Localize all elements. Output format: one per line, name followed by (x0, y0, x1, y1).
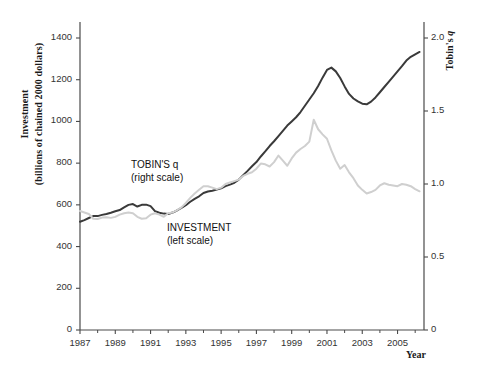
x-tick-label: 1991 (131, 337, 171, 348)
chart-figure: Investment (billions of chained 2000 dol… (0, 0, 489, 375)
left-tick-label: 800 (32, 156, 72, 167)
left-tick-label: 400 (32, 240, 72, 251)
left-tick-label: 200 (32, 281, 72, 292)
left-tick-label: 0 (32, 323, 72, 334)
x-tick-label: 1993 (166, 337, 206, 348)
x-tick-label: 1989 (95, 337, 135, 348)
right-tick-label: 0.5 (431, 250, 471, 261)
x-tick-label: 1997 (236, 337, 276, 348)
right-tick-label: 1.5 (431, 104, 471, 115)
right-tick-label: 0 (431, 323, 471, 334)
right-tick-label: 2.0 (431, 31, 471, 42)
x-tick-label: 2003 (342, 337, 382, 348)
left-tick-label: 1000 (32, 114, 72, 125)
investment-series-line (80, 52, 420, 222)
x-tick-label: 1995 (201, 337, 241, 348)
axis-lines (80, 22, 424, 330)
x-tick-label: 2001 (307, 337, 347, 348)
x-tick-label: 1987 (60, 337, 100, 348)
series-layer (80, 52, 420, 222)
left-tick-label: 1400 (32, 31, 72, 42)
plot-area (0, 0, 489, 375)
x-tick-label: 1999 (272, 337, 312, 348)
right-tick-label: 1.0 (431, 177, 471, 188)
left-tick-label: 600 (32, 198, 72, 209)
left-tick-label: 1200 (32, 73, 72, 84)
x-tick-label: 2005 (378, 337, 418, 348)
